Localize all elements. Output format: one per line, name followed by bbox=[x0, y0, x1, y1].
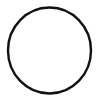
canvas-background bbox=[0, 0, 102, 101]
circle-figure-svg bbox=[0, 0, 102, 101]
figure-canvas bbox=[0, 0, 102, 101]
